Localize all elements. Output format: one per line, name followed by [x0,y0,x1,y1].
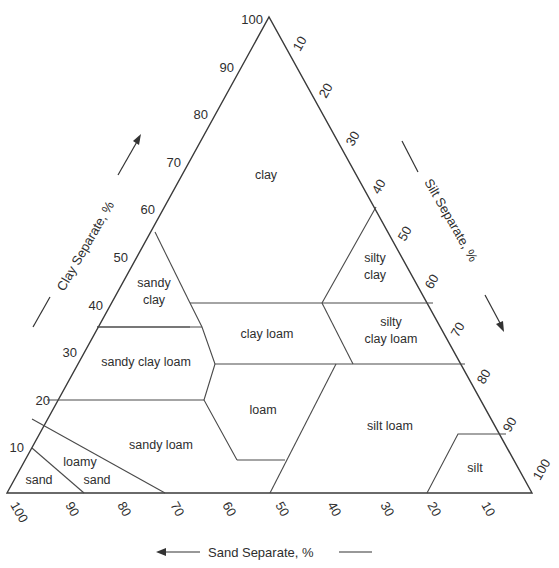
label-silty-clay-1: silty [364,251,386,265]
svg-text:30: 30 [63,345,77,360]
label-clay: clay [255,168,278,182]
sand-axis-title: Sand Separate, % [156,545,372,560]
svg-text:40: 40 [369,176,389,196]
svg-text:10: 10 [478,499,498,519]
svg-text:60: 60 [219,499,239,519]
label-silty-clay-loam-2: clay loam [365,332,418,346]
svg-text:90: 90 [62,499,82,519]
svg-text:20: 20 [316,80,336,100]
svg-text:10: 10 [290,33,310,53]
svg-text:Silt Separate, %: Silt Separate, % [421,176,481,265]
label-silty-clay-loam-1: silty [380,315,402,329]
svg-text:50: 50 [114,250,128,265]
svg-text:20: 20 [424,499,444,519]
label-loamy-sand-1: loamy [63,455,97,469]
svg-text:30: 30 [343,128,363,148]
soil-texture-triangle: clay sandy clay silty clay clay loam sil… [0,0,559,568]
svg-text:Clay Separate, %: Clay Separate, % [54,198,118,293]
svg-text:80: 80 [474,366,494,386]
label-loam: loam [249,403,276,417]
svg-text:50: 50 [395,223,415,243]
svg-text:100: 100 [241,12,263,27]
svg-text:20: 20 [36,393,50,408]
arrow-down-icon [496,321,504,332]
svg-text:90: 90 [500,414,520,434]
label-loamy-sand-2: sand [83,473,110,487]
label-silt-loam: silt loam [367,419,413,433]
svg-text:30: 30 [377,499,397,519]
clay-axis-title: Clay Separate, % [33,134,141,327]
svg-text:90: 90 [220,60,234,75]
svg-text:100: 100 [530,456,554,482]
label-sand: sand [25,473,52,487]
class-boundaries [32,207,506,493]
label-clay-loam: clay loam [241,327,294,341]
svg-text:70: 70 [167,499,187,519]
label-sandy-loam: sandy loam [129,438,193,452]
svg-text:Sand Separate, %: Sand Separate, % [208,545,314,560]
svg-text:80: 80 [114,499,134,519]
clay-axis-ticks: 10 20 30 40 50 60 70 80 90 100 [10,12,263,455]
svg-text:80: 80 [194,107,208,122]
svg-text:40: 40 [89,298,103,313]
arrow-left-icon [156,548,166,556]
label-sandy-clay-loam: sandy clay loam [101,355,191,369]
silt-axis-ticks: 10 20 30 40 50 60 70 80 90 100 [290,33,554,482]
svg-text:100: 100 [7,499,31,525]
sand-axis-ticks: 100 90 80 70 60 50 40 30 20 10 [7,499,498,525]
label-sandy-clay-2: clay [143,293,166,307]
svg-text:60: 60 [422,271,442,291]
label-silt: silt [467,461,483,475]
label-silty-clay-2: clay [364,268,387,282]
label-sandy-clay-1: sandy [137,276,171,290]
arrow-up-icon [133,134,141,145]
svg-text:10: 10 [10,440,24,455]
svg-text:50: 50 [272,499,292,519]
svg-text:60: 60 [141,202,155,217]
svg-text:70: 70 [448,319,468,339]
svg-text:70: 70 [167,155,181,170]
svg-text:40: 40 [324,499,344,519]
